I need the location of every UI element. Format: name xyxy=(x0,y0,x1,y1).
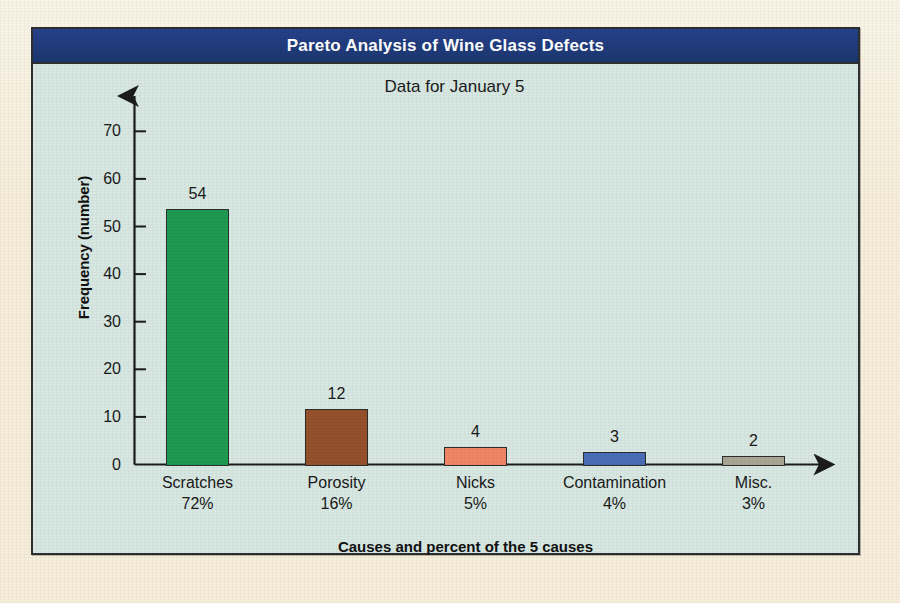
scanned-page: Pareto Analysis of Wine Glass Defects Da… xyxy=(0,0,900,603)
category-contamination: Contamination 4% xyxy=(552,472,677,514)
bar-slot: 4 xyxy=(413,64,538,466)
bar-value-label: 4 xyxy=(413,423,538,441)
category-name: Contamination xyxy=(552,472,677,493)
chart-title-bar: Pareto Analysis of Wine Glass Defects xyxy=(33,29,858,64)
bars-layer: 54 12 4 3 2 xyxy=(135,64,835,466)
category-name: Misc. xyxy=(691,472,816,493)
category-name: Scratches xyxy=(135,472,260,493)
y-tick-label: 20 xyxy=(75,360,121,378)
category-name: Porosity xyxy=(274,472,399,493)
y-tick-label: 40 xyxy=(75,265,121,283)
bar-misc[interactable] xyxy=(722,456,785,466)
bar-value-label: 54 xyxy=(135,185,260,203)
y-tick-label: 60 xyxy=(75,170,121,188)
category-percent: 4% xyxy=(552,493,677,514)
chart-title: Pareto Analysis of Wine Glass Defects xyxy=(287,36,604,56)
plot-body: Data for January 5 Frequency (number) xyxy=(33,64,858,553)
x-axis-title: Causes and percent of the 5 causes xyxy=(33,538,858,555)
category-percent: 3% xyxy=(691,493,816,514)
bar-slot: 2 xyxy=(691,64,816,466)
category-name: Nicks xyxy=(413,472,538,493)
bar-slot: 3 xyxy=(552,64,677,466)
category-scratches: Scratches 72% xyxy=(135,472,260,514)
y-tick-label: 70 xyxy=(75,122,121,140)
bar-contamination[interactable] xyxy=(583,452,646,466)
category-nicks: Nicks 5% xyxy=(413,472,538,514)
bar-nicks[interactable] xyxy=(444,447,507,466)
bar-porosity[interactable] xyxy=(305,409,368,466)
bar-value-label: 2 xyxy=(691,432,816,450)
category-percent: 72% xyxy=(135,493,260,514)
category-percent: 16% xyxy=(274,493,399,514)
y-tick-label: 10 xyxy=(75,408,121,426)
chart-panel: Pareto Analysis of Wine Glass Defects Da… xyxy=(31,27,860,555)
category-porosity: Porosity 16% xyxy=(274,472,399,514)
y-tick-label: 30 xyxy=(75,313,121,331)
bar-value-label: 12 xyxy=(274,385,399,403)
bar-value-label: 3 xyxy=(552,428,677,446)
bar-slot: 54 xyxy=(135,64,260,466)
y-tick-label: 50 xyxy=(75,218,121,236)
category-misc: Misc. 3% xyxy=(691,472,816,514)
bar-scratches[interactable] xyxy=(166,209,229,466)
category-labels: Scratches 72% Porosity 16% Nicks 5% Cont… xyxy=(135,472,835,532)
category-percent: 5% xyxy=(413,493,538,514)
bar-slot: 12 xyxy=(274,64,399,466)
y-tick-label: 0 xyxy=(75,456,121,474)
